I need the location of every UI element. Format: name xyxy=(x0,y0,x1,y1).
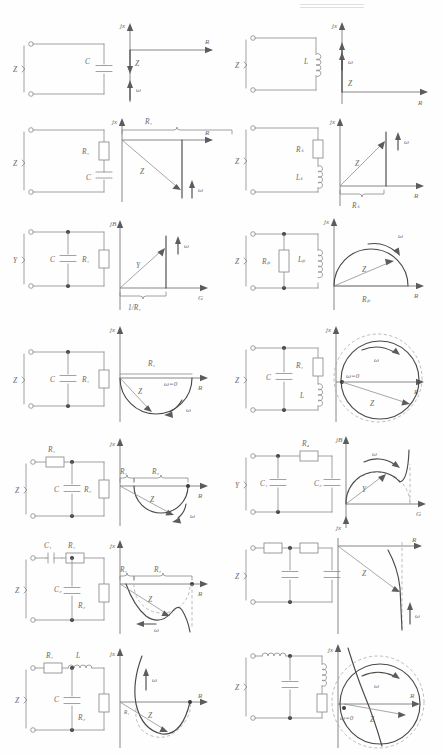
omega-zero-label: ω=0 xyxy=(346,372,360,380)
cell-r7c1: R₁ L Z C R₂ jx R R₁ Z ω xyxy=(0,642,222,752)
circuit-r3c2: Z Rₚ Lₚ xyxy=(235,232,323,291)
locus-r2c2: jx R Z ω Rₛ xyxy=(329,118,424,210)
bracket-label-r2: R₂ xyxy=(151,467,160,476)
axis-label-jb: jB xyxy=(109,220,117,228)
axis-label-r: R xyxy=(204,38,210,46)
label-l: L xyxy=(303,57,308,66)
omega-label: ω xyxy=(415,612,420,620)
cell-r5c1: R₁ Z C R₂ jx R R₁ R₂ Z ω xyxy=(0,430,222,530)
label-c: C xyxy=(50,375,55,384)
axis-label-jx: jx xyxy=(325,326,332,334)
label-r1: R₁ xyxy=(67,541,76,550)
label-r1: R₁ xyxy=(81,375,90,384)
omega-zero-label: ω=0 xyxy=(164,380,178,388)
label-r2: R₂ xyxy=(83,485,92,494)
label-c1: C₁ xyxy=(260,479,268,488)
label-ls: Lₛ xyxy=(295,173,303,182)
figure-sheet: Z C jx R Z ω Z L jx xyxy=(0,0,444,755)
circuit-r5c1: R₁ Z C R₂ xyxy=(15,445,109,518)
bracket-label-r1: R₁ xyxy=(147,359,156,368)
axis-label-jx: jx xyxy=(109,650,116,658)
vector-label-z: Z xyxy=(140,167,145,176)
omega-label: ω xyxy=(184,242,189,250)
omega-label: ω xyxy=(374,682,379,690)
cell-r1c2: Z L jx R Z ω xyxy=(222,6,444,110)
label-z: Z xyxy=(235,257,240,266)
label-lp: Lₚ xyxy=(297,255,306,264)
axis-label-jx: jx xyxy=(327,646,334,654)
bracket-label-rp: Rₚ xyxy=(361,295,371,304)
vector-label-z: Z xyxy=(362,569,367,578)
cell-r1c1: Z C jx R Z ω xyxy=(0,6,222,110)
label-z: Z xyxy=(15,696,20,705)
label-r4: R₄ xyxy=(301,439,310,448)
omega-label: ω xyxy=(374,356,379,364)
cell-r6c1: C₁ R₁ Z C₂ R₂ jx R R₁ R₂ xyxy=(0,532,222,638)
axis-label-jx: jx xyxy=(109,440,116,448)
cell-r2c1: Z R₁ C jx R R₁ Z ω xyxy=(0,110,222,210)
circuit-r2c1: Z R₁ C xyxy=(13,128,112,195)
vector-label-z: Z xyxy=(348,79,353,88)
locus-r1c2: jx R Z ω xyxy=(331,22,428,107)
label-c: C xyxy=(54,485,59,494)
omega-label: ω xyxy=(136,86,141,94)
label-z: Z xyxy=(15,586,20,595)
circuit-r6c2: Z xyxy=(235,543,340,604)
omega-label: ω xyxy=(186,406,191,414)
cell-r5c2: R₄ Y C₁ C₂ jB G jx Y ω xyxy=(222,430,444,530)
label-c: C xyxy=(266,373,271,382)
axis-label-r: R xyxy=(411,536,417,544)
circuit-r1c2: Z L xyxy=(235,36,321,93)
axis-label-jx-lower: jx xyxy=(335,524,342,532)
label-rp: Rₚ xyxy=(261,257,271,266)
circuit-r5c2: R₄ Y C₁ C₂ xyxy=(235,439,340,514)
label-y: Y xyxy=(13,256,18,265)
axis-label-r: R xyxy=(409,692,415,700)
start-marker-r1: R₁ xyxy=(123,709,129,715)
vector-label-z: Z xyxy=(150,495,155,504)
cell-r4c2: Z C R₁ L jx R ω=0 Z ω xyxy=(222,322,444,426)
locus-r3c1: jB G Y ω 1/R₁ xyxy=(109,220,208,312)
cell-r6c2: Z R Z ω xyxy=(222,532,444,638)
vector-label-z: Z xyxy=(135,59,140,68)
label-z: Z xyxy=(235,572,240,581)
label-z: Z xyxy=(13,159,18,168)
axis-label-r: R xyxy=(413,292,419,300)
bracket-label-conductance: 1/R₁ xyxy=(128,303,141,312)
label-c: C xyxy=(86,173,91,182)
omega-zero-label: ω=0 xyxy=(340,714,354,722)
locus-r7c1: jx R R₁ Z ω xyxy=(109,648,208,748)
locus-r7c2: jx R ω=0 Z ω xyxy=(327,644,424,748)
label-c: C xyxy=(85,57,90,66)
cell-r7c2: Z jx R ω=0 Z ω xyxy=(222,642,444,752)
locus-r6c1: jx R R₁ R₂ Z ω xyxy=(109,540,208,634)
axis-label-r: R xyxy=(197,590,203,598)
axis-label-jb: jB xyxy=(335,436,343,444)
cell-r2c2: Z Rₛ Lₛ jx R Z ω Rₛ xyxy=(222,110,444,210)
locus-r2c1: jx R R₁ Z ω xyxy=(111,117,232,202)
axis-label-r: R xyxy=(197,692,203,700)
omega-label: ω xyxy=(348,58,353,66)
label-z: Z xyxy=(235,683,240,692)
label-z: Z xyxy=(15,486,20,495)
vector-label-z: Z xyxy=(138,387,143,396)
vector-label-y: Y xyxy=(136,261,141,270)
circuit-r2c2: Z Rₛ Lₛ xyxy=(235,126,323,195)
cell-r3c1: Y C R₁ jB G Y ω 1/R₁ xyxy=(0,214,222,314)
vector-label-z: Z xyxy=(370,399,375,408)
circuit-r3c1: Y C R₁ xyxy=(13,230,109,289)
label-r1: R₁ xyxy=(47,445,56,454)
bracket-label-r1: R₁ xyxy=(144,117,153,126)
label-r1: R₁ xyxy=(81,147,90,156)
axis-label-r: R xyxy=(197,492,203,500)
label-z: Z xyxy=(13,376,18,385)
axis-label-jx: jx xyxy=(323,218,330,226)
label-c2: C₂ xyxy=(314,479,322,488)
label-l: L xyxy=(75,651,80,660)
locus-r1c1: jx R Z ω xyxy=(119,22,213,102)
label-c: C xyxy=(50,255,55,264)
omega-label: ω xyxy=(152,676,157,684)
label-r1: R₁ xyxy=(295,361,304,370)
omega-label: ω xyxy=(404,138,409,146)
locus-r5c1: jx R R₁ R₂ Z ω xyxy=(109,438,208,526)
